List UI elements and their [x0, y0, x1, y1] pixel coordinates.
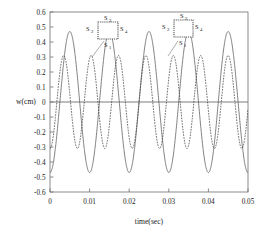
inset-2-label-bottom: S — [179, 39, 183, 46]
chart-root: -0.6-0.5-0.4-0.3-0.2-0.100.10.20.30.40.5… — [0, 0, 273, 235]
y-tick-label: -0.3 — [34, 144, 46, 152]
inset-2-label-right: S — [195, 23, 199, 30]
y-tick-label: 0 — [42, 99, 46, 107]
inset-1-label-bottom: S — [104, 41, 108, 48]
y-axis-title: w(cm) — [16, 97, 36, 106]
y-tick-label: -0.4 — [34, 159, 46, 167]
x-tick-label: 0.01 — [83, 198, 96, 206]
x-tick-label: 0 — [48, 198, 52, 206]
x-tick-label: 0.03 — [163, 198, 176, 206]
y-tick-label: -0.1 — [34, 114, 46, 122]
inset-2-label-top: S — [180, 12, 184, 19]
x-tick-label: 0.05 — [242, 198, 255, 206]
inset-2-square — [174, 20, 193, 37]
inset-1-label-right: S — [120, 25, 124, 32]
y-tick-label: -0.2 — [34, 129, 46, 137]
inset-1-label-top: S — [104, 14, 108, 21]
oscillation-chart: -0.6-0.5-0.4-0.3-0.2-0.100.10.20.30.40.5… — [0, 0, 273, 235]
y-tick-label: 0.3 — [37, 54, 46, 62]
x-axis-title: time(sec) — [135, 217, 164, 226]
x-tick-label: 0.02 — [123, 198, 136, 206]
inset-1-label-left: S — [86, 25, 90, 32]
y-tick-label: 0.5 — [37, 24, 46, 32]
inset-1-square — [98, 22, 118, 39]
y-tick-label: 0.2 — [37, 69, 46, 77]
y-tick-label: 0.4 — [37, 39, 46, 47]
x-tick-label: 0.04 — [202, 198, 215, 206]
y-tick-label: -0.6 — [34, 189, 46, 197]
y-tick-label: 0.1 — [37, 84, 46, 92]
y-tick-label: 0.6 — [37, 9, 46, 17]
y-tick-label: -0.5 — [34, 174, 46, 182]
inset-2-label-left: S — [162, 23, 166, 30]
